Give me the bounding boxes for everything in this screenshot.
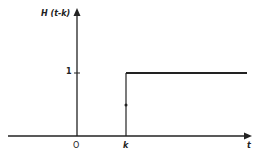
y-axis-label: H (t-k): [41, 9, 70, 18]
discontinuity-dot: [125, 104, 128, 107]
origin-label: O: [73, 141, 79, 150]
step-function-plot: [0, 0, 259, 161]
x-axis-label: t: [247, 141, 251, 150]
y-tick-label: 1: [66, 67, 72, 76]
k-label: k: [123, 141, 128, 150]
y-axis-arrow-icon: [74, 8, 81, 16]
x-axis-arrow-icon: [244, 133, 252, 140]
